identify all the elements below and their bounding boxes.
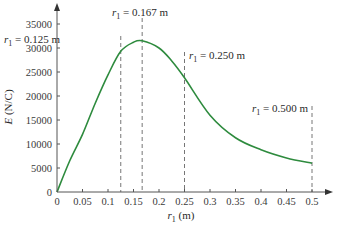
- x-tick-label: 0.5: [305, 196, 318, 207]
- y-tick-label: 25000: [26, 67, 52, 78]
- y-tick-label: 20000: [26, 91, 52, 102]
- axes: [54, 3, 333, 195]
- x-tick-label: 0.1: [101, 196, 114, 207]
- x-tick-label: 0.4: [254, 196, 268, 207]
- x-tick-label: 0.25: [175, 196, 193, 207]
- x-axis-arrow-icon: [325, 189, 333, 195]
- x-tick-label: 0.35: [226, 196, 244, 207]
- y-axis-title: E (N/C): [2, 89, 15, 125]
- y-tick-label: 10000: [26, 139, 52, 150]
- x-tick-label: 0.15: [124, 196, 142, 207]
- y-tick-label: 5000: [31, 163, 52, 174]
- y-tick-label: 0: [47, 187, 52, 198]
- y-tick-label: 35000: [26, 19, 52, 30]
- y-tick-label: 15000: [26, 115, 52, 126]
- annotation-label: r1 = 0.167 m: [112, 6, 168, 21]
- x-tick-label: 0.2: [152, 196, 165, 207]
- x-tick-label: 0.05: [73, 196, 91, 207]
- annotation-label: r1 = 0.250 m: [189, 49, 245, 64]
- chart: 00.050.10.150.20.250.30.350.40.450.5 050…: [0, 0, 340, 231]
- x-tick-label: 0: [54, 196, 59, 207]
- x-tick-label: 0.45: [277, 196, 295, 207]
- x-tick-label: 0.3: [203, 196, 216, 207]
- x-axis-title: r1 (m): [168, 209, 195, 224]
- y-axis-ticks: 05000100001500020000250003000035000: [26, 19, 60, 198]
- y-axis-arrow-icon: [54, 3, 60, 11]
- annotation-label: r1 = 0.500 m: [252, 102, 308, 117]
